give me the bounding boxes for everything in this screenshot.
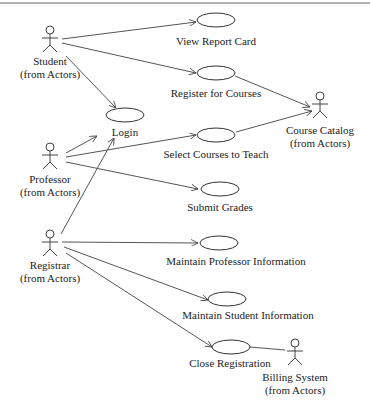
assoc-registrar-close-registration[interactable] [66, 253, 212, 347]
use-case-label: Register for Courses [171, 87, 261, 99]
assoc-close-registration-billing[interactable] [250, 347, 285, 350]
actor-name: Professor [29, 173, 71, 185]
actor-stereotype: (from Actors) [20, 68, 81, 81]
use-case-ellipse[interactable] [197, 128, 235, 142]
actor-name: Registrar [30, 259, 71, 271]
assoc-student-login[interactable] [66, 56, 116, 108]
use-case-ellipse[interactable] [208, 292, 246, 306]
assoc-registrar-maintain-professor[interactable] [62, 242, 198, 243]
stick-figure-icon [42, 143, 58, 169]
use-case-label: Maintain Student Information [182, 309, 314, 321]
use-case-label: Login [112, 126, 139, 138]
actor-course-catalog[interactable]: Course Catalog (from Actors) [286, 92, 355, 150]
stick-figure-icon [312, 92, 328, 118]
assoc-professor-submit-grades[interactable] [66, 162, 198, 189]
actor-name: Student [33, 55, 67, 67]
use-case-label: View Report Card [176, 35, 256, 47]
use-case-ellipse[interactable] [201, 182, 239, 196]
use-case-maintain-student-information[interactable]: Maintain Student Information [182, 292, 314, 321]
actor-name: Course Catalog [286, 124, 355, 136]
stick-figure-icon [42, 230, 58, 256]
use-case-close-registration[interactable]: Close Registration [189, 340, 271, 369]
use-case-diagram: View Report Card Register for Courses Lo… [0, 0, 370, 410]
use-case-maintain-professor-information[interactable]: Maintain Professor Information [166, 236, 306, 267]
use-case-register-for-courses[interactable]: Register for Courses [171, 66, 261, 99]
assoc-student-register-for-courses[interactable] [62, 43, 196, 73]
use-case-select-courses-to-teach[interactable]: Select Courses to Teach [163, 128, 269, 160]
use-case-submit-grades[interactable]: Submit Grades [187, 182, 253, 213]
actor-stereotype: (from Actors) [290, 137, 351, 150]
actor-stereotype: (from Actors) [20, 272, 81, 285]
use-case-ellipse[interactable] [197, 66, 235, 80]
associations [61, 22, 312, 350]
assoc-professor-login[interactable] [66, 136, 97, 153]
use-case-ellipse[interactable] [212, 340, 250, 354]
use-case-label: Select Courses to Teach [163, 148, 269, 160]
stick-figure-icon [287, 339, 303, 365]
use-case-ellipse[interactable] [200, 236, 238, 250]
use-case-view-report-card[interactable]: View Report Card [176, 13, 256, 47]
actor-professor[interactable]: Professor (from Actors) [20, 143, 81, 199]
use-case-label: Submit Grades [187, 201, 253, 213]
actor-billing-system[interactable]: Billing System (from Actors) [262, 339, 328, 397]
actor-registrar[interactable]: Registrar (from Actors) [20, 230, 81, 285]
use-case-login[interactable]: Login [106, 108, 144, 138]
actor-name: Billing System [262, 371, 328, 383]
actor-student[interactable]: Student (from Actors) [20, 26, 81, 81]
use-case-label: Close Registration [189, 357, 271, 369]
actor-stereotype: (from Actors) [265, 384, 326, 397]
stick-figure-icon [42, 26, 58, 52]
use-case-label: Maintain Professor Information [166, 255, 306, 267]
use-case-ellipse[interactable] [197, 13, 235, 27]
use-case-ellipse[interactable] [106, 108, 144, 122]
actor-stereotype: (from Actors) [20, 186, 81, 199]
